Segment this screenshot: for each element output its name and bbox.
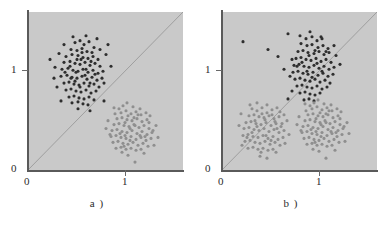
data-point bbox=[119, 111, 122, 114]
data-point bbox=[310, 86, 313, 89]
data-point bbox=[246, 147, 249, 150]
data-point bbox=[91, 55, 94, 58]
data-point bbox=[342, 125, 345, 128]
data-point bbox=[317, 150, 320, 153]
data-point bbox=[100, 77, 103, 80]
data-point bbox=[130, 119, 133, 122]
data-point bbox=[288, 75, 291, 78]
series-cluster-2-light bbox=[104, 101, 159, 163]
data-point bbox=[109, 65, 112, 68]
data-point bbox=[313, 120, 316, 123]
data-point bbox=[64, 88, 67, 91]
data-point bbox=[331, 126, 334, 129]
data-point bbox=[302, 65, 305, 68]
data-point bbox=[264, 134, 267, 137]
data-point bbox=[286, 97, 289, 100]
data-point bbox=[332, 66, 335, 69]
data-point bbox=[312, 64, 315, 67]
data-point bbox=[314, 130, 317, 133]
data-point bbox=[333, 149, 336, 152]
data-point bbox=[308, 92, 311, 95]
data-point bbox=[122, 124, 125, 127]
data-point bbox=[120, 116, 123, 119]
two-panel-scatter-figure: 1 0 0 1 a ) 1 0 0 1 b ) bbox=[0, 0, 389, 228]
data-point bbox=[305, 70, 308, 73]
data-point bbox=[95, 79, 98, 82]
data-point bbox=[67, 81, 70, 84]
data-point bbox=[285, 119, 288, 122]
data-point bbox=[325, 106, 328, 109]
data-point bbox=[76, 54, 79, 57]
series-cluster-2-light-left bbox=[237, 101, 290, 159]
data-point bbox=[315, 39, 318, 42]
data-point bbox=[267, 114, 270, 117]
data-point bbox=[278, 110, 281, 113]
data-point bbox=[308, 104, 311, 107]
data-point bbox=[84, 68, 87, 71]
data-point bbox=[121, 142, 124, 145]
data-point bbox=[301, 49, 304, 52]
data-point bbox=[71, 69, 74, 72]
data-point bbox=[241, 40, 244, 43]
y-axis-a bbox=[27, 10, 29, 172]
data-point bbox=[278, 144, 281, 147]
data-point bbox=[326, 47, 329, 50]
data-point bbox=[272, 128, 275, 131]
data-point bbox=[138, 107, 141, 110]
data-point bbox=[337, 141, 340, 144]
data-point bbox=[129, 135, 132, 138]
data-point bbox=[53, 66, 56, 69]
data-point bbox=[59, 75, 62, 78]
data-point bbox=[148, 114, 151, 117]
data-point bbox=[55, 86, 58, 89]
data-point bbox=[340, 133, 343, 136]
data-point bbox=[313, 78, 316, 81]
data-point bbox=[242, 127, 245, 130]
data-point bbox=[316, 127, 319, 130]
data-point bbox=[298, 91, 301, 94]
data-point bbox=[143, 135, 146, 138]
data-point bbox=[303, 79, 306, 82]
series-cluster-1-dark bbox=[241, 30, 341, 102]
data-point bbox=[264, 121, 267, 124]
data-point bbox=[144, 139, 147, 142]
data-point bbox=[90, 51, 93, 54]
data-point bbox=[296, 70, 299, 73]
data-point bbox=[313, 93, 316, 96]
data-point bbox=[124, 137, 127, 140]
data-point bbox=[83, 61, 86, 64]
data-point bbox=[325, 145, 328, 148]
data-point bbox=[69, 87, 72, 90]
data-point bbox=[267, 130, 270, 133]
y-tick-label-0-b: 0 bbox=[205, 163, 211, 174]
data-point bbox=[70, 101, 73, 104]
data-point bbox=[121, 104, 124, 107]
data-point bbox=[282, 68, 285, 71]
data-point bbox=[154, 124, 157, 127]
data-point bbox=[74, 89, 77, 92]
data-point bbox=[276, 55, 279, 58]
data-point bbox=[286, 32, 289, 35]
data-point bbox=[82, 82, 85, 85]
data-point bbox=[77, 96, 80, 99]
data-point bbox=[145, 118, 148, 121]
data-point bbox=[88, 64, 91, 67]
data-point bbox=[112, 106, 115, 109]
data-point bbox=[334, 131, 337, 134]
data-point bbox=[131, 141, 134, 144]
data-point bbox=[310, 132, 313, 135]
data-point bbox=[251, 135, 254, 138]
data-point bbox=[110, 129, 113, 132]
y-tick-label-1-a: 1 bbox=[11, 64, 17, 75]
data-point bbox=[108, 133, 111, 136]
data-point bbox=[251, 146, 254, 149]
data-point bbox=[338, 63, 341, 66]
data-point bbox=[319, 135, 322, 138]
scatter-plot-a bbox=[28, 12, 183, 170]
data-point bbox=[270, 108, 273, 111]
data-point bbox=[63, 71, 66, 74]
data-point bbox=[273, 141, 276, 144]
data-point bbox=[303, 90, 306, 93]
data-point bbox=[327, 68, 330, 71]
data-point bbox=[57, 52, 60, 55]
